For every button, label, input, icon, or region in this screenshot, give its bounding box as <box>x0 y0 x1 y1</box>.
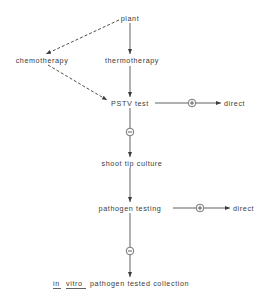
node-pstv-test: PSTV test <box>111 99 149 108</box>
negative-symbol-2 <box>126 247 134 255</box>
node-pathogen-testing: pathogen testing <box>99 204 162 213</box>
node-pstv-direct: direct <box>224 99 245 108</box>
collection-rest-text: pathogen tested collection <box>90 279 189 288</box>
edge-plant-chemotherapy <box>46 20 119 54</box>
collection-vitro-text: vitro <box>66 279 83 288</box>
node-chemotherapy: chemotherapy <box>16 56 69 65</box>
node-plant: plant <box>121 14 140 23</box>
edge-chemotherapy-pstv <box>48 65 107 100</box>
node-thermotherapy: thermotherapy <box>105 56 159 65</box>
positive-symbol-1 <box>188 99 196 107</box>
flow-diagram: plant chemotherapy thermotherapy PSTV te… <box>0 0 269 296</box>
collection-in-text: in <box>53 279 60 288</box>
node-shoot-tip-culture: shoot tip culture <box>102 159 163 168</box>
node-pathogen-direct: direct <box>233 204 254 213</box>
positive-symbol-2 <box>196 204 204 212</box>
negative-symbol-1 <box>126 128 134 136</box>
node-collection: in vitro pathogen tested collection <box>53 279 189 289</box>
